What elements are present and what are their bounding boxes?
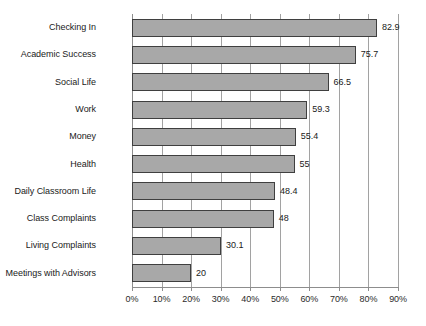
bar-value-label: 59.3	[312, 96, 330, 123]
bar-row: Academic Success75.7	[132, 41, 398, 68]
bar-value-label: 30.1	[226, 232, 244, 259]
tick-label-90%: 90%	[378, 294, 418, 304]
bar	[132, 46, 356, 64]
category-label: Academic Success	[21, 41, 96, 68]
category-label: Checking In	[49, 14, 96, 41]
bar	[132, 210, 274, 228]
bar	[132, 19, 377, 37]
bar-value-label: 82.9	[382, 14, 400, 41]
category-label: Meetings with Advisors	[6, 260, 96, 287]
bar-chart: Checking In82.9Academic Success75.7Socia…	[0, 0, 426, 326]
gridline-90%	[398, 14, 399, 287]
bar-row: Living Complaints30.1	[132, 232, 398, 259]
category-label: Class Complaints	[27, 205, 96, 232]
category-label: Social Life	[55, 69, 96, 96]
tick-60%	[309, 287, 310, 291]
category-label: Health	[70, 151, 96, 178]
bar-row: Money55.4	[132, 123, 398, 150]
tick-40%	[250, 287, 251, 291]
bar-row: Health55	[132, 151, 398, 178]
tick-80%	[368, 287, 369, 291]
bar-row: Class Complaints48	[132, 205, 398, 232]
bar	[132, 73, 329, 91]
category-label: Work	[75, 96, 96, 123]
bar-value-label: 66.5	[334, 69, 352, 96]
tick-0%	[132, 287, 133, 291]
bar-row: Social Life66.5	[132, 69, 398, 96]
bar-row: Checking In82.9	[132, 14, 398, 41]
bar	[132, 182, 275, 200]
tick-50%	[280, 287, 281, 291]
bar-row: Meetings with Advisors20	[132, 260, 398, 287]
tick-20%	[191, 287, 192, 291]
bar	[132, 128, 296, 146]
category-label: Living Complaints	[26, 232, 96, 259]
tick-30%	[221, 287, 222, 291]
bar	[132, 237, 221, 255]
bar	[132, 155, 295, 173]
plot-area: Checking In82.9Academic Success75.7Socia…	[132, 14, 398, 287]
bar-row: Daily Classroom Life48.4	[132, 178, 398, 205]
tick-10%	[162, 287, 163, 291]
bar-value-label: 48	[279, 205, 289, 232]
bar	[132, 264, 191, 282]
bar-value-label: 55.4	[301, 123, 319, 150]
bar-value-label: 55	[300, 151, 310, 178]
bar-value-label: 75.7	[361, 41, 379, 68]
x-axis-line	[132, 287, 399, 288]
category-label: Daily Classroom Life	[14, 178, 96, 205]
bar	[132, 101, 307, 119]
tick-70%	[339, 287, 340, 291]
bar-row: Work59.3	[132, 96, 398, 123]
bar-value-label: 48.4	[280, 178, 298, 205]
bar-value-label: 20	[196, 260, 206, 287]
tick-90%	[398, 287, 399, 291]
category-label: Money	[69, 123, 96, 150]
